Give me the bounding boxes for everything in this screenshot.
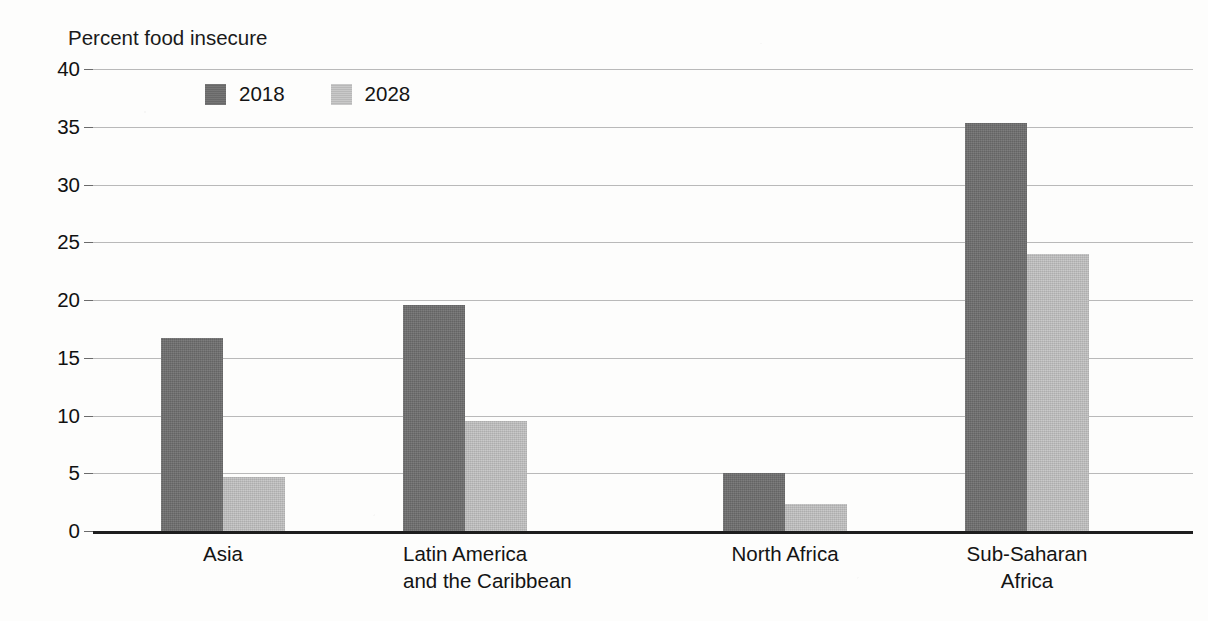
y-tick-label: 10 [57,405,80,426]
bar-group [161,69,285,531]
y-tick-mark [84,242,93,243]
legend-item-2018: 2018 [205,84,285,105]
bar-2018 [965,123,1027,531]
bar-2018 [161,338,223,531]
y-tick-label: 15 [57,348,80,369]
light-gray-swatch-icon [331,84,352,105]
y-axis-labels: 4035302520151050 [0,69,93,531]
bar-2028 [1027,254,1089,531]
y-tick-label: 25 [57,232,80,253]
dark-gray-swatch-icon [205,84,226,105]
chart-legend: 20182028 [205,84,410,105]
y-tick-label: 5 [69,463,80,484]
category-label: North Africa [723,540,847,567]
bar-group [403,69,527,531]
category-label-line: and the Caribbean [403,567,527,594]
y-tick-mark [84,473,93,474]
category-label: Asia [161,540,285,567]
y-tick-mark [84,69,93,70]
y-tick-label: 30 [57,174,80,195]
y-axis-title: Percent food insecure [68,26,267,50]
y-tick-label: 40 [57,59,80,80]
category-label-line: North Africa [723,540,847,567]
bar-group [965,69,1089,531]
x-axis-category-labels: AsiaLatin Americaand the CaribbeanNorth … [93,540,1193,610]
category-label-line: Africa [965,567,1089,594]
y-tick-mark [84,416,93,417]
bar-2018 [403,305,465,531]
y-tick-mark [84,358,93,359]
plot-area [93,69,1193,531]
y-tick-mark [84,185,93,186]
bar-group [723,69,847,531]
bar-series-container [93,69,1193,531]
bar-2028 [465,421,527,531]
y-tick-label: 35 [57,117,80,138]
y-tick-mark [84,127,93,128]
bar-2018 [723,473,785,531]
legend-label: 2018 [239,84,285,105]
y-tick-mark [84,531,93,532]
category-label: Latin Americaand the Caribbean [403,540,527,594]
category-label-line: Sub-Saharan [965,540,1089,567]
category-label: Sub-SaharanAfrica [965,540,1089,594]
category-label-line: Latin America [403,540,527,567]
y-tick-mark [84,300,93,301]
y-tick-label: 20 [57,290,80,311]
legend-label: 2028 [365,84,411,105]
category-label-line: Asia [161,540,285,567]
bar-2028 [785,504,847,531]
legend-item-2028: 2028 [331,84,411,105]
y-tick-label: 0 [69,521,80,542]
axis-baseline [93,531,1193,534]
bar-chart-figure: Percent food insecure 4035302520151050 2… [0,0,1208,621]
bar-2028 [223,477,285,531]
